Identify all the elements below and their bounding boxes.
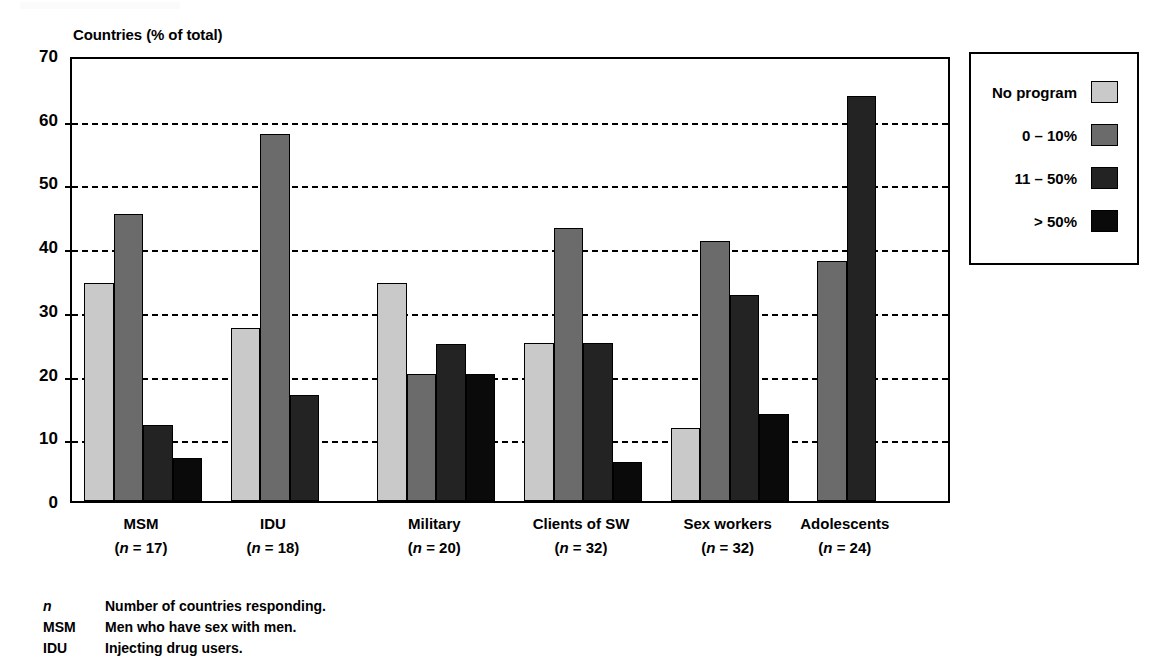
- footnote-key: IDU: [43, 638, 105, 659]
- y-tick-mark: [65, 250, 72, 252]
- bar-group: [524, 59, 642, 501]
- x-axis-label-name: Adolescents: [800, 515, 889, 532]
- bar[interactable]: [730, 295, 760, 501]
- bar[interactable]: [84, 283, 114, 501]
- legend-item[interactable]: 11 – 50%: [971, 164, 1137, 192]
- legend-color-swatch: [1091, 124, 1118, 146]
- bar[interactable]: [524, 343, 554, 501]
- y-tick-label: 50: [0, 174, 58, 194]
- x-axis-label-name: Clients of SW: [533, 515, 630, 532]
- legend-item[interactable]: 0 – 10%: [971, 121, 1137, 149]
- x-axis-label: Adolescents(n = 24): [755, 512, 935, 560]
- bar[interactable]: [231, 328, 261, 501]
- bar[interactable]: [260, 134, 290, 501]
- footnote-row: nNumber of countries responding.: [43, 596, 643, 617]
- y-tick-label: 40: [0, 238, 58, 258]
- bar-group: [84, 59, 202, 501]
- bar-group: [671, 59, 789, 501]
- y-tick-label: 30: [0, 302, 58, 322]
- bar-group: [817, 59, 876, 501]
- y-tick-mark: [65, 441, 72, 443]
- x-axis-label-n: (n = 18): [183, 536, 363, 560]
- footnote-row: MSMMen who have sex with men.: [43, 617, 643, 638]
- x-axis-label-name: MSM: [124, 515, 159, 532]
- x-axis-labels: MSM(n = 17)IDU(n = 18)Military(n = 20)Cl…: [70, 512, 950, 574]
- y-tick-label: 20: [0, 366, 58, 386]
- legend-item[interactable]: No program: [971, 78, 1137, 106]
- footnote-row: IDUInjecting drug users.: [43, 638, 643, 659]
- bar[interactable]: [759, 414, 789, 501]
- y-axis-title: Countries (% of total): [73, 26, 222, 43]
- bar[interactable]: [143, 425, 173, 501]
- bar[interactable]: [114, 214, 144, 501]
- legend-item[interactable]: > 50%: [971, 207, 1137, 235]
- footnotes: nNumber of countries responding.MSMMen w…: [43, 596, 643, 659]
- y-tick-label: 70: [0, 47, 58, 67]
- legend-item-label: > 50%: [1034, 213, 1077, 230]
- y-tick-label: 10: [0, 429, 58, 449]
- legend-color-swatch: [1091, 167, 1118, 189]
- bar[interactable]: [847, 96, 877, 501]
- y-tick-mark: [65, 123, 72, 125]
- bar[interactable]: [671, 428, 701, 501]
- y-tick-mark: [65, 186, 72, 188]
- plot-area: [70, 57, 950, 503]
- bar[interactable]: [554, 228, 584, 501]
- y-axis-ticks: 706050403020100: [0, 57, 58, 503]
- x-axis-label-name: IDU: [260, 515, 286, 532]
- legend-item-label: 0 – 10%: [1022, 127, 1077, 144]
- legend: No program0 – 10%11 – 50%> 50%: [969, 52, 1139, 265]
- x-axis-label-name: Military: [408, 515, 461, 532]
- legend-color-swatch: [1091, 210, 1118, 232]
- bar-group: [377, 59, 495, 501]
- y-tick-mark: [65, 314, 72, 316]
- y-tick-mark: [65, 378, 72, 380]
- footnote-text: Number of countries responding.: [105, 596, 326, 617]
- x-axis-label-n: (n = 24): [755, 536, 935, 560]
- bar[interactable]: [407, 374, 437, 501]
- y-tick-label: 60: [0, 111, 58, 131]
- scan-artifact: [20, 2, 180, 9]
- footnote-key: n: [43, 596, 105, 617]
- footnote-text: Injecting drug users.: [105, 638, 243, 659]
- footnote-text: Men who have sex with men.: [105, 617, 296, 638]
- bar[interactable]: [436, 344, 466, 501]
- legend-item-label: No program: [992, 84, 1077, 101]
- legend-item-label: 11 – 50%: [1014, 170, 1077, 187]
- bar[interactable]: [613, 462, 643, 502]
- y-tick-label: 0: [0, 493, 58, 513]
- bar[interactable]: [817, 261, 847, 501]
- chart-figure: Countries (% of total) 706050403020100 M…: [0, 0, 1156, 666]
- bar[interactable]: [290, 395, 320, 501]
- legend-color-swatch: [1091, 81, 1118, 103]
- bar[interactable]: [466, 374, 496, 501]
- bar[interactable]: [583, 343, 613, 501]
- bars-layer: [72, 59, 948, 501]
- x-axis-label: IDU(n = 18): [183, 512, 363, 560]
- bar[interactable]: [700, 241, 730, 501]
- bar-group: [231, 59, 320, 501]
- footnote-key: MSM: [43, 617, 105, 638]
- bar[interactable]: [377, 283, 407, 501]
- bar[interactable]: [173, 458, 203, 501]
